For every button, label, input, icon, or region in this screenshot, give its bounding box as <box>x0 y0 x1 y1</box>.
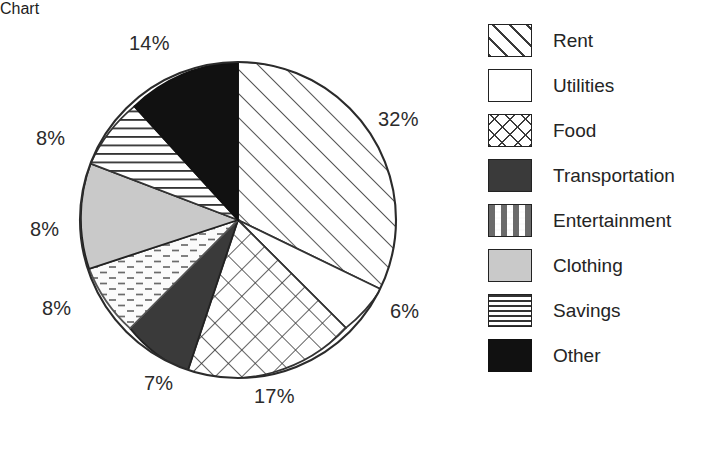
legend-label-entertainment: Entertainment <box>553 211 671 230</box>
legend-label-other: Other <box>553 346 601 365</box>
dashes-swatch-icon <box>488 204 532 237</box>
legend-item-clothing[interactable]: Clothing <box>488 243 713 288</box>
legend-item-savings[interactable]: Savings <box>488 288 713 333</box>
slice-label-rent: 32% <box>378 108 419 131</box>
slice-label-entertainment: 8% <box>42 297 71 320</box>
legend-item-food[interactable]: Food <box>488 108 713 153</box>
pie-chart-figure: 32% 6% 17% 7% 8% 8% 8% 14% Rent Utilitie… <box>0 0 721 464</box>
blank-swatch-icon <box>488 69 532 102</box>
legend-label-transportation: Transportation <box>553 166 675 185</box>
legend-label-savings: Savings <box>553 301 621 320</box>
slice-label-food: 17% <box>254 385 295 408</box>
legend-label-utilities: Utilities <box>553 76 614 95</box>
legend-label-food: Food <box>553 121 596 140</box>
diagonal-stripes-swatch-icon <box>488 24 532 57</box>
legend-label-clothing: Clothing <box>553 256 623 275</box>
chart-legend: Rent Utilities Food Transportation Enter… <box>488 18 713 378</box>
light-gray-swatch-icon <box>488 249 532 282</box>
legend-item-utilities[interactable]: Utilities <box>488 63 713 108</box>
legend-item-entertainment[interactable]: Entertainment <box>488 198 713 243</box>
dark-gray-swatch-icon <box>488 159 532 192</box>
slice-label-clothing: 8% <box>30 218 59 241</box>
slice-label-transportation: 7% <box>144 372 173 395</box>
legend-item-other[interactable]: Other <box>488 333 713 378</box>
slice-label-savings: 8% <box>36 127 65 150</box>
black-swatch-icon <box>488 339 532 372</box>
crosshatch-swatch-icon <box>488 114 532 147</box>
slice-label-other: 14% <box>129 32 170 55</box>
slice-label-utilities: 6% <box>390 300 419 323</box>
legend-label-rent: Rent <box>553 31 593 50</box>
horizontal-lines-swatch-icon <box>488 294 532 327</box>
legend-item-rent[interactable]: Rent <box>488 18 713 63</box>
legend-item-transportation[interactable]: Transportation <box>488 153 713 198</box>
